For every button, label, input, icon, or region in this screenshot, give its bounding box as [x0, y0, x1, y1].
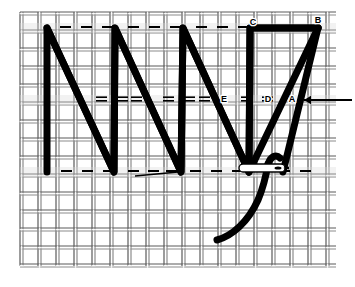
mesh-weave-notch	[309, 246, 310, 250]
mesh-weave-notch	[147, 228, 148, 232]
mesh-weave-notch	[182, 247, 186, 248]
mesh-weave-notch	[75, 12, 76, 16]
mesh-weave-notch	[219, 228, 220, 232]
mesh-weave-notch	[255, 192, 256, 196]
mesh-weave-notch	[21, 66, 22, 70]
mesh-weave-notch	[128, 265, 132, 266]
mesh-weave-notch	[272, 85, 276, 86]
mesh-weave-notch	[327, 84, 328, 88]
mesh-weave-notch	[273, 210, 274, 214]
mesh-weave-notch	[39, 48, 40, 52]
mesh-weave-notch	[57, 66, 58, 70]
mesh-weave-notch	[75, 228, 76, 232]
mesh-weave-notch	[56, 121, 60, 122]
mesh-weave-notch	[92, 193, 96, 194]
mesh-weave-notch	[236, 193, 240, 194]
mesh-weave-notch	[308, 265, 312, 266]
mesh-weave-notch	[128, 193, 132, 194]
mesh-weave-notch	[111, 264, 112, 268]
mesh-weave-notch	[309, 138, 310, 142]
mesh-weave-notch	[38, 247, 42, 248]
mesh-weave-notch	[20, 157, 24, 158]
mesh-weave-notch	[219, 156, 220, 160]
mesh-weave-notch	[327, 192, 328, 196]
mesh-weave-notch	[39, 156, 40, 160]
mesh-weave-notch	[147, 84, 148, 88]
mesh-weave-notch	[291, 156, 292, 160]
mesh-weave-notch	[272, 13, 276, 14]
mesh-weave-notch	[74, 211, 78, 212]
mesh-weave-notch	[129, 246, 130, 250]
mesh-weave-notch	[236, 49, 240, 50]
mesh-weave-notch	[255, 120, 256, 124]
mesh-weave-notch	[56, 193, 60, 194]
mesh-weave-notch	[39, 228, 40, 232]
mesh-weave-notch	[39, 120, 40, 124]
mesh-weave-notch	[21, 138, 22, 142]
mesh-weave-notch	[236, 121, 240, 122]
mesh-weave-notch	[146, 139, 150, 140]
mesh-weave-notch	[237, 210, 238, 214]
mesh-weave-notch	[200, 265, 204, 266]
mesh-weave-notch	[326, 211, 330, 212]
mesh-weave-notch	[290, 211, 294, 212]
mesh-weave-notch	[146, 67, 150, 68]
mesh-weave-notch	[273, 246, 274, 250]
mesh-weave-notch	[308, 193, 312, 194]
mesh-weave-notch	[218, 247, 222, 248]
mesh-weave-notch	[74, 139, 78, 140]
mesh-weave-notch	[92, 13, 96, 14]
mesh-weave-notch	[326, 67, 330, 68]
mesh-weave-notch	[200, 121, 204, 122]
mesh-weave-notch	[56, 13, 60, 14]
mesh-weave-notch	[147, 48, 148, 52]
sewing-needle	[239, 164, 289, 172]
mesh-weave-notch	[272, 49, 276, 50]
mesh-weave-notch	[255, 84, 256, 88]
mesh-weave-notch	[308, 157, 312, 158]
mesh-weave-notch	[219, 84, 220, 88]
mesh-weave-notch	[147, 156, 148, 160]
mesh-weave-notch	[147, 12, 148, 16]
mesh-weave-notch	[254, 247, 258, 248]
mesh-weave-notch	[146, 211, 150, 212]
mesh-weave-notch	[38, 67, 42, 68]
label-e: E	[221, 94, 227, 104]
mesh-weave-notch	[291, 48, 292, 52]
label-b: B	[315, 15, 322, 25]
mesh-weave-notch	[20, 193, 24, 194]
mesh-weave-notch	[272, 265, 276, 266]
mesh-weave-notch	[93, 210, 94, 214]
mesh-weave-notch	[291, 264, 292, 268]
mesh-weave-notch	[183, 264, 184, 268]
mesh-weave-notch	[308, 13, 312, 14]
mesh-weave-notch	[57, 138, 58, 142]
mesh-weave-notch	[327, 120, 328, 124]
mesh-weave-notch	[291, 12, 292, 16]
mesh-weave-notch	[110, 247, 114, 248]
mesh-weave-notch	[92, 229, 96, 230]
mesh-weave-notch	[218, 211, 222, 212]
mesh-weave-notch	[92, 85, 96, 86]
mesh-weave-notch	[200, 49, 204, 50]
mesh-weave-notch	[255, 264, 256, 268]
mesh-weave-notch	[147, 192, 148, 196]
mesh-weave-notch	[20, 121, 24, 122]
mesh-weave-notch	[254, 139, 258, 140]
mesh-weave-notch	[92, 49, 96, 50]
mesh-weave-notch	[129, 138, 130, 142]
mesh-weave-notch	[164, 13, 168, 14]
mesh-weave-notch	[93, 246, 94, 250]
mesh-weave-notch	[201, 210, 202, 214]
mesh-weave-notch	[128, 13, 132, 14]
mesh-weave-notch	[255, 48, 256, 52]
mesh-weave-notch	[291, 192, 292, 196]
mesh-weave-notch	[219, 48, 220, 52]
mesh-weave-notch	[236, 85, 240, 86]
mesh-weave-notch	[21, 210, 22, 214]
mesh-weave-notch	[308, 121, 312, 122]
mesh-weave-notch	[200, 229, 204, 230]
mesh-weave-notch	[57, 210, 58, 214]
mesh-weave-notch	[201, 246, 202, 250]
mesh-weave-notch	[200, 13, 204, 14]
